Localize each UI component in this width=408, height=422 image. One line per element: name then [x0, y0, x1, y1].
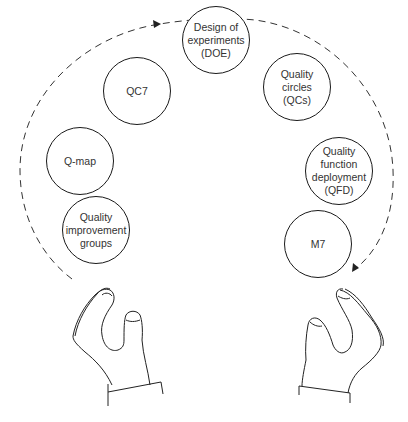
- node-qc7: QC7: [103, 57, 171, 125]
- node-label: Q-map: [64, 155, 96, 168]
- node-quality-function-deployment: Quality function deployment (QFD): [305, 137, 373, 205]
- node-label: Quality circles (QCs): [281, 68, 314, 107]
- arrowhead-bottom-icon: [352, 263, 359, 272]
- left-hand-icon: [73, 288, 163, 406]
- right-hand-icon: [299, 289, 383, 403]
- node-label: M7: [311, 238, 326, 251]
- node-quality-circles: Quality circles (QCs): [263, 53, 331, 121]
- node-q-map: Q-map: [46, 127, 114, 195]
- node-quality-improvement-groups: Quality improvement groups: [62, 196, 130, 264]
- node-label: Quality function deployment (QFD): [312, 145, 366, 197]
- node-m7: M7: [284, 210, 352, 278]
- node-label: Design of experiments (DOE): [187, 21, 244, 60]
- juggling-diagram: Quality improvement groups Q-map QC7 Des…: [0, 0, 408, 422]
- arrowhead-top-icon: [153, 20, 161, 28]
- node-label: Quality improvement groups: [66, 211, 127, 250]
- node-label: QC7: [126, 85, 148, 98]
- node-design-of-experiments: Design of experiments (DOE): [182, 6, 250, 74]
